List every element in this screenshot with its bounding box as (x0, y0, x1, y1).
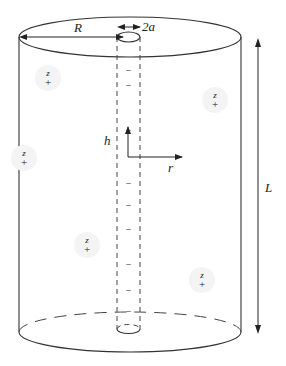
counterion-plus-sign: + (84, 243, 90, 255)
local-axes: h r (104, 127, 182, 175)
counterion: z+ (35, 65, 61, 91)
counterion: z+ (202, 87, 228, 113)
radial-axis-label: r (168, 160, 174, 175)
radius-arrow-tail (19, 34, 27, 40)
rod-minus-charge: − (126, 306, 132, 317)
rod-minus-charge: − (126, 80, 132, 91)
length-arrow-bottom (255, 325, 261, 334)
counterion: z+ (11, 145, 37, 171)
counterion: z+ (74, 232, 100, 258)
rod-negative-charges: −−−−−−−−− (126, 65, 132, 317)
counterion-plus-sign: + (212, 98, 218, 110)
length-label: L (264, 180, 272, 195)
counterion-plus-sign: + (199, 278, 205, 290)
rod-bottom-front (117, 329, 140, 334)
rod-minus-charge: − (126, 259, 132, 270)
radius-dimension: R (19, 20, 123, 40)
axial-axis-label: h (104, 133, 111, 148)
rod-minus-charge: − (126, 178, 132, 189)
rod-minus-charge: − (126, 200, 132, 211)
rod-bottom-back (117, 325, 140, 330)
diameter-arrow-tail (117, 24, 125, 30)
radius-label: R (73, 20, 82, 35)
rod-minus-charge: − (126, 125, 132, 136)
length-dimension: L (255, 38, 272, 334)
counterions: z+z+z+z+z+ (11, 65, 228, 293)
rod-minus-charge: − (126, 65, 132, 76)
rod-diameter-dimension: 2a (117, 19, 156, 34)
counterion-plus-sign: + (45, 76, 51, 88)
counterion: z+ (189, 267, 215, 293)
counterion-plus-sign: + (21, 156, 27, 168)
bottom-front-arc (19, 332, 241, 352)
rod-minus-charge: − (126, 285, 132, 296)
diameter-label: 2a (142, 19, 156, 34)
cylindrical-cell-diagram: −−−−−−−−− R 2a L h r z+z+z+z+z+ (0, 0, 286, 366)
length-arrow-top (255, 38, 261, 47)
rod-minus-charge: − (126, 224, 132, 235)
